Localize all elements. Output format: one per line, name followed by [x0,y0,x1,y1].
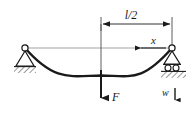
pinned-support [14,45,36,73]
roller-wheel-right [173,65,179,71]
point-load-label: F [111,90,120,104]
roller-ground-hatching [161,72,186,78]
beam-diagram-canvas: l/2 F x w [0,0,196,117]
roller-support [161,45,186,78]
x-axis-label: x [150,34,156,46]
deflection-label: w [162,87,169,98]
roller-wheel-left [165,65,171,71]
deflected-beam-curve [25,48,172,76]
span-dimension-label: l/2 [125,8,138,22]
pin-ground-hatching [14,67,36,73]
beam-diagram: l/2 F x w [0,0,196,117]
